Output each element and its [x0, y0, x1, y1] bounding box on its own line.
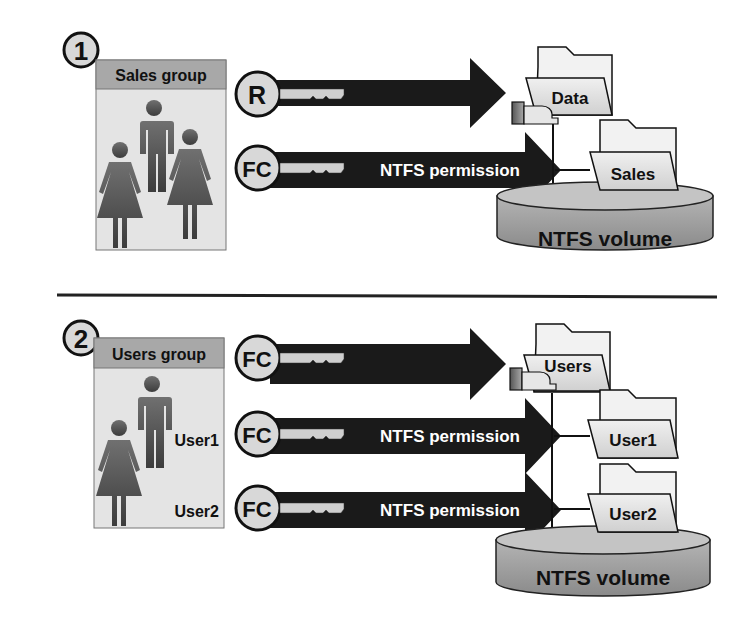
folder-icon: User2	[588, 464, 678, 532]
arrow-text: NTFS permission	[380, 501, 520, 520]
folder-icon: User1	[588, 390, 678, 458]
folder-label: User1	[609, 431, 656, 450]
folder-label: Users	[544, 357, 591, 376]
step-badge-2: 2	[64, 321, 98, 355]
arrow-text: NTFS permission	[380, 427, 520, 446]
section-1: 1 Sales group	[64, 33, 713, 250]
member-label: User1	[175, 432, 220, 449]
folder-icon: Data	[526, 47, 612, 115]
ntfs-volume: NTFS volume	[496, 526, 710, 596]
key-label: FC	[242, 423, 271, 448]
key-label: FC	[242, 157, 271, 182]
permission-arrow: FC NTFS permission	[236, 398, 561, 474]
key-label: R	[248, 81, 266, 109]
volume-label: NTFS volume	[536, 566, 670, 589]
arrow-text: NTFS permission	[380, 161, 520, 180]
key-label: FC	[242, 497, 271, 522]
folder-icon: Sales	[590, 120, 678, 190]
key-label: FC	[242, 347, 271, 372]
folder-label: Data	[552, 89, 589, 108]
users-group-box: Users group User1 User2	[94, 338, 224, 528]
step-number: 1	[74, 36, 88, 66]
diagram-canvas: 1 Sales group	[0, 0, 750, 620]
folder-label: User2	[609, 505, 656, 524]
step-number: 2	[74, 324, 88, 354]
member-label: User2	[175, 503, 220, 520]
group-title: Sales group	[115, 67, 207, 84]
section-2: 2 Users group User1 User2 FC	[64, 321, 710, 596]
folder-label: Sales	[611, 165, 655, 184]
permission-arrow: R	[236, 58, 506, 128]
sales-group-box: Sales group	[96, 60, 226, 250]
group-title: Users group	[112, 346, 206, 363]
section-divider	[57, 295, 717, 297]
volume-label: NTFS volume	[538, 227, 672, 250]
ntfs-volume: NTFS volume	[497, 182, 713, 250]
permission-arrow: FC	[236, 328, 506, 400]
step-badge-1: 1	[64, 33, 98, 67]
